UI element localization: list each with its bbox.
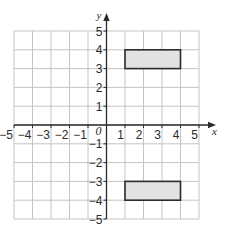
x-axis-label: x [211,125,217,137]
y-tick-label: −4 [89,194,103,208]
y-tick-label: 1 [96,100,103,114]
origin-label: 0 [96,124,102,138]
x-tick-label: −1 [73,128,87,142]
y-axis-arrow-icon [103,13,109,21]
y-tick-label: 5 [96,25,103,39]
coordinate-plane: x y 0 −5−4−3−2−11234554321−1−2−3−4−5 [0,0,225,235]
x-tick-label: 2 [136,128,143,142]
y-axis-label: y [96,9,102,21]
y-tick-label: −5 [89,213,103,227]
x-tick-label: −4 [18,128,32,142]
x-tick-label: −5 [0,128,13,142]
y-tick-label: 4 [96,43,103,57]
axes: x y 0 [14,9,217,219]
x-tick-label: −3 [36,128,50,142]
y-tick-label: −3 [89,175,103,189]
x-tick-label: −2 [55,128,69,142]
x-tick-label: 5 [191,128,198,142]
x-tick-label: 1 [117,128,124,142]
lower-rectangle [125,181,181,200]
y-tick-label: 3 [96,62,103,76]
y-tick-label: −1 [89,137,103,151]
x-tick-label: 3 [154,128,161,142]
upper-rectangle [125,50,181,69]
y-tick-label: −2 [89,156,103,170]
y-tick-label: 2 [96,81,103,95]
x-tick-label: 4 [173,128,180,142]
